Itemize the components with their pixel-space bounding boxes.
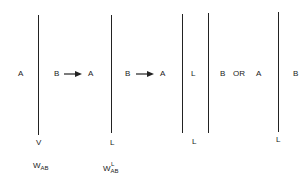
- arrow-1-icon: [64, 70, 82, 78]
- panel-2-right-label: B: [125, 70, 130, 78]
- panel-1-work-label: WAB: [33, 162, 49, 170]
- panel-2-bottom-label: L: [110, 139, 114, 147]
- panel-1-bottom-label: V: [36, 139, 41, 147]
- panel-3-middle-label: L: [191, 70, 195, 78]
- panel-2-left-label: A: [88, 70, 93, 78]
- panel-2-interface-line: [111, 15, 112, 133]
- panel-3-bottom-label: L: [192, 138, 196, 146]
- panel-2-work-label: WLAB: [103, 165, 119, 173]
- panel-3-right-interface-line: [208, 13, 209, 133]
- panel-3-left-interface-line: [182, 14, 183, 133]
- arrow-2-icon: [136, 70, 154, 78]
- panel-1-left-label: A: [18, 70, 23, 78]
- panel-3-left-label: A: [160, 70, 165, 78]
- panel-3-right-label: B: [220, 70, 225, 78]
- panel-4-right-label: B: [293, 70, 298, 78]
- panel-4-interface-line: [278, 12, 279, 132]
- panel-1-right-label: B: [54, 70, 59, 78]
- panel-4-bottom-label: L: [276, 136, 280, 144]
- panel-1-interface-line: [38, 15, 39, 135]
- panel-4-left-label: A: [256, 70, 261, 78]
- or-text: OR: [233, 70, 245, 78]
